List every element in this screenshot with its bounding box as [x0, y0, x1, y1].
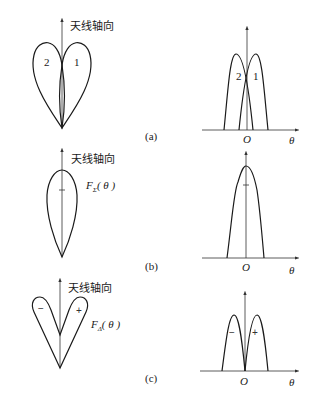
difference-lobe-positive: [245, 315, 268, 371]
origin-label: O: [243, 133, 251, 145]
antenna-pattern-diagram: 天线轴向 2 1 (a) 2 1 O θ 天线轴向: [0, 0, 313, 406]
lobe-1-label-cartesian: 1: [253, 70, 259, 82]
panel-c-polar-pattern: 天线轴向 − + FΔ( θ ): [32, 280, 120, 368]
panel-a-label: (a): [145, 130, 158, 143]
panel-a-polar-pattern: 天线轴向 2 1: [33, 19, 114, 128]
origin-label: O: [240, 375, 248, 387]
plus-sign-label-cartesian: +: [252, 327, 258, 338]
antenna-axis-label: 天线轴向: [71, 152, 115, 166]
theta-label: θ: [289, 264, 295, 276]
theta-label: θ: [289, 134, 295, 146]
plus-sign-label: +: [76, 305, 82, 316]
theta-label: θ: [289, 376, 295, 388]
panel-c-label: (c): [145, 372, 158, 385]
sum-beam-cartesian: [227, 166, 264, 258]
sum-function-label: FΣ( θ ): [85, 179, 115, 194]
panel-b-polar-pattern: 天线轴向 FΣ( θ ): [47, 150, 116, 257]
panel-a: 天线轴向 2 1 (a) 2 1 O θ: [33, 19, 297, 146]
panel-b-cartesian-pattern: O θ: [202, 153, 297, 276]
difference-function-label: FΔ( θ ): [90, 318, 120, 333]
panel-b: 天线轴向 FΣ( θ ) (b) O θ: [47, 150, 297, 276]
lobe-2-label: 2: [44, 56, 50, 68]
antenna-axis-label: 天线轴向: [68, 281, 112, 295]
origin-label: O: [242, 261, 250, 273]
panel-c: 天线轴向 − + FΔ( θ ) (c) − + O θ: [32, 280, 297, 388]
panel-a-cartesian-pattern: 2 1 O θ: [202, 28, 297, 146]
lobe-1-label: 1: [74, 56, 80, 68]
minus-sign-label: −: [38, 303, 44, 314]
panel-c-cartesian-pattern: − + O θ: [200, 293, 297, 388]
difference-lobe-negative: [222, 315, 245, 371]
antenna-axis-label: 天线轴向: [70, 19, 114, 33]
panel-b-label: (b): [145, 260, 158, 273]
minus-sign-label-cartesian: −: [229, 327, 235, 338]
lobe-2-label-cartesian: 2: [236, 70, 242, 82]
